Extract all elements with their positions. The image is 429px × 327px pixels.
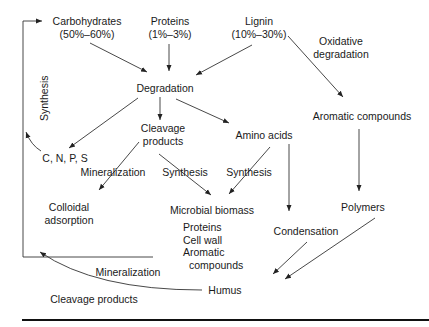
arrow-degradation-amino bbox=[176, 99, 229, 123]
node-polymers: Polymers bbox=[340, 201, 386, 214]
arrow-lignin-degradation bbox=[196, 45, 252, 75]
lignin-label: Lignin bbox=[227, 15, 291, 28]
carbohydrates-label: Carbohydrates bbox=[44, 15, 130, 28]
colloidal-line1: Colloidal bbox=[40, 201, 98, 214]
node-cleavage-products-bottom: Cleavage products bbox=[49, 293, 139, 306]
biomass-item: Aromatic bbox=[183, 246, 253, 259]
oxidative-line2: degradation bbox=[311, 48, 371, 61]
carbohydrates-share: (50%–60%) bbox=[44, 28, 130, 41]
biomass-item: Cell wall bbox=[183, 234, 253, 247]
biomass-item: Proteins bbox=[183, 221, 253, 234]
node-aromatic-compounds: Aromatic compounds bbox=[312, 110, 412, 123]
biomass-item: compounds bbox=[183, 259, 253, 272]
edge-label-synthesis-cleavage: Synthesis bbox=[160, 166, 210, 179]
edge-label-mineralization-cleavage: Mineralization bbox=[80, 166, 146, 179]
proteins-label: Proteins bbox=[145, 15, 195, 28]
arrow-degradation-cnps bbox=[69, 98, 138, 148]
lignin-share: (10%–30%) bbox=[227, 28, 291, 41]
cleavage-line1: Cleavage bbox=[138, 122, 188, 135]
cleavage-line2: products bbox=[138, 135, 188, 148]
node-cnps: C, N, P, S bbox=[40, 152, 90, 165]
node-humus: Humus bbox=[207, 284, 243, 297]
node-condensation: Condensation bbox=[273, 225, 339, 238]
edge-label-oxidative-degradation: Oxidative degradation bbox=[311, 35, 371, 60]
edge-label-synthesis-amino: Synthesis bbox=[224, 166, 274, 179]
node-proteins: Proteins (1%–3%) bbox=[145, 15, 195, 40]
edge-label-synthesis-loop: Synthesis bbox=[38, 72, 51, 124]
arrow-carbohydrates-degradation bbox=[90, 43, 147, 72]
bottom-rule bbox=[22, 319, 429, 321]
arrow-cnps-loop bbox=[26, 132, 41, 151]
node-carbohydrates: Carbohydrates (50%–60%) bbox=[44, 15, 130, 40]
node-cleavage-products: Cleavage products bbox=[138, 122, 188, 147]
node-lignin: Lignin (10%–30%) bbox=[227, 15, 291, 40]
edge-label-mineralization-humus: Mineralization bbox=[95, 266, 161, 279]
arrow-condensation-humus bbox=[273, 242, 307, 274]
node-colloidal-adsorption: Colloidal adsorption bbox=[40, 201, 98, 226]
proteins-share: (1%–3%) bbox=[145, 28, 195, 41]
node-degradation: Degradation bbox=[130, 82, 200, 95]
microbial-biomass-items: Proteins Cell wall Aromatic compounds bbox=[183, 221, 253, 271]
colloidal-line2: adsorption bbox=[40, 214, 98, 227]
node-amino-acids: Amino acids bbox=[234, 129, 294, 142]
node-microbial-biomass: Microbial biomass bbox=[167, 204, 257, 217]
oxidative-line1: Oxidative bbox=[311, 35, 371, 48]
